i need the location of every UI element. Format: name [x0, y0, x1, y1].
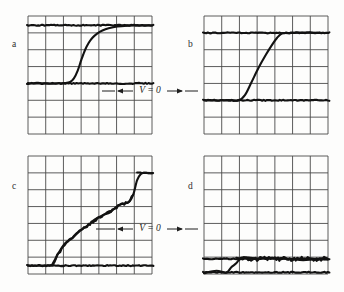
panel-d-trace — [203, 257, 329, 273]
panel-b-grid — [204, 16, 328, 134]
panel-c-grid — [28, 156, 152, 274]
vzero-arrows — [96, 88, 198, 231]
vzero-label-bottom: V = 0 — [136, 224, 164, 234]
panel-label-c: c — [12, 182, 16, 192]
panel-label-d: d — [188, 182, 193, 192]
panel-label-a: a — [12, 40, 16, 50]
annotation-layer — [0, 0, 344, 292]
panel-label-b: b — [188, 40, 193, 50]
panel-b-trace — [203, 32, 329, 100]
panel-d-grid — [204, 156, 328, 274]
panel-a-grid — [28, 16, 152, 134]
panel-b-canvas — [0, 0, 344, 292]
panel-c-trace — [27, 172, 153, 266]
panel-d-canvas — [0, 0, 344, 292]
vzero-label-top: V = 0 — [136, 86, 164, 96]
panel-a-trace — [27, 25, 153, 84]
panel-c-canvas — [0, 0, 344, 292]
figure-root: a b c d V = 0 V = 0 — [0, 0, 344, 292]
panel-a-canvas — [0, 0, 344, 292]
